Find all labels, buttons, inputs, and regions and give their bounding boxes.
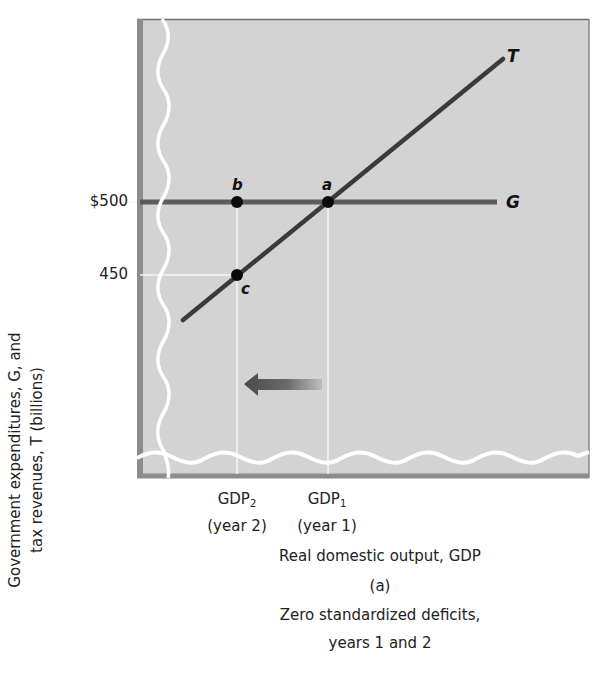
panel-label: (a) [200, 577, 560, 595]
chart-canvas [0, 0, 598, 675]
x-tick-gdp1-subscript: 1 [340, 498, 346, 509]
x-tick-gdp2-label: GDP [218, 490, 250, 508]
t-line-label: T [507, 46, 519, 66]
x-tick-gdp1-note: (year 1) [297, 517, 356, 535]
y-tick-500: $500 [68, 192, 128, 210]
point-b [231, 196, 243, 208]
y-axis-title-line-2: tax revenues, T (billions) [26, 300, 48, 620]
subtitle-line-1: Zero standardized deficits, [200, 606, 560, 624]
y-tick-450: 450 [68, 265, 128, 283]
x-tick-gdp1: GDP1 (year 1) [287, 488, 367, 537]
g-line-label: G [506, 192, 520, 212]
subtitle-line-2: years 1 and 2 [200, 634, 560, 652]
x-tick-gdp2-subscript: 2 [250, 498, 256, 509]
y-axis-title-line-1: Government expenditures, G, and [4, 300, 26, 620]
x-tick-gdp2: GDP2 (year 2) [197, 488, 277, 537]
point-c-label: c [241, 280, 250, 298]
x-axis-title: Real domestic output, GDP [200, 547, 560, 565]
plot-area [137, 19, 589, 478]
point-a [322, 196, 334, 208]
y-axis-title: Government expenditures, G, and tax reve… [4, 300, 64, 620]
x-tick-gdp1-label: GDP [308, 490, 340, 508]
point-b-label: b [232, 176, 243, 194]
x-tick-gdp2-note: (year 2) [207, 517, 266, 535]
point-a-label: a [322, 176, 332, 194]
